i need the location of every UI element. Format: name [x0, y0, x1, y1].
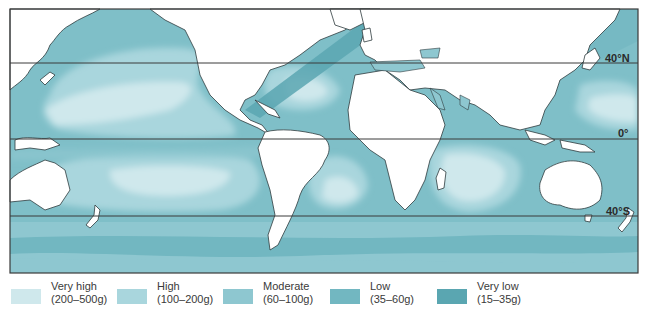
swatch-high	[117, 289, 147, 304]
swatch-moderate	[223, 289, 253, 304]
legend: Very high (200–500g) High (100–200g) Mod…	[0, 278, 654, 311]
world-productivity-map	[0, 0, 654, 275]
legend-label: Low	[370, 280, 414, 293]
legend-range: (15–35g)	[477, 293, 521, 306]
legend-range: (60–100g)	[263, 293, 313, 306]
australia-right	[540, 161, 602, 209]
legend-label: High	[157, 280, 213, 293]
latitude-label-40n: 40°N	[605, 52, 630, 64]
legend-label: Very high	[51, 280, 107, 293]
legend-range: (200–500g)	[51, 293, 107, 306]
latitude-label-40s: 40°S	[606, 205, 630, 217]
legend-label: Moderate	[263, 280, 313, 293]
legend-range: (100–200g)	[157, 293, 213, 306]
legend-label: Very low	[477, 280, 521, 293]
swatch-low	[330, 289, 360, 304]
latitude-label-equator: 0°	[618, 127, 629, 139]
swatch-very-low	[437, 289, 467, 304]
legend-range: (35–60g)	[370, 293, 414, 306]
swatch-very-high	[11, 289, 41, 304]
